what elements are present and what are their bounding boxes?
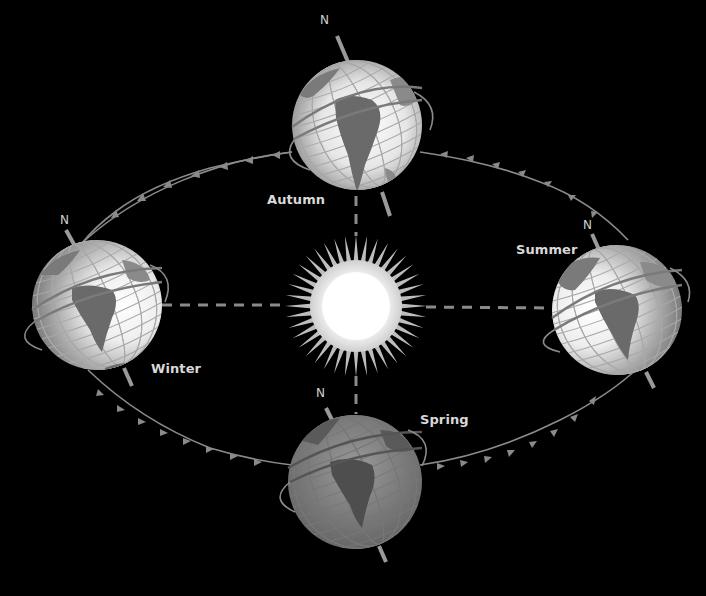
seasons-diagram: N N N N Autumn Winter Summer Spring xyxy=(0,0,706,596)
season-label-winter: Winter xyxy=(151,361,201,376)
north-label-winter: N xyxy=(60,213,69,227)
season-label-summer: Summer xyxy=(516,242,578,257)
globe-autumn xyxy=(272,36,441,216)
globe-spring xyxy=(268,395,442,569)
north-label-summer: N xyxy=(583,218,592,232)
sun-icon xyxy=(285,235,427,377)
north-label-spring: N xyxy=(316,386,325,400)
diagram-canvas xyxy=(0,0,706,596)
north-label-autumn: N xyxy=(320,13,329,27)
season-label-spring: Spring xyxy=(420,412,469,427)
season-label-autumn: Autumn xyxy=(267,192,325,207)
